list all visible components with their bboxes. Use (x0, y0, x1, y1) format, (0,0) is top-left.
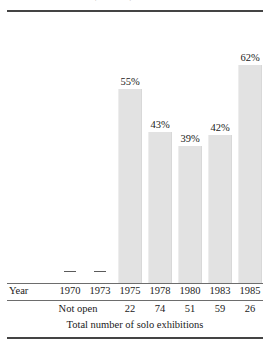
count-cell: 22 (115, 303, 145, 314)
bottom-rule (7, 337, 263, 339)
year-cell: 1975 (115, 285, 145, 296)
bar (148, 132, 172, 283)
count-cell: 51 (175, 303, 205, 314)
year-row-header: Year (9, 285, 28, 296)
year-cell: 1970 (55, 285, 85, 296)
bar-value-label: 43% (145, 119, 175, 130)
count-cell: 74 (145, 303, 175, 314)
no-data-dash (94, 271, 106, 272)
bar-column (55, 0, 85, 283)
bar-value-label: 39% (175, 133, 205, 144)
bar-column: 62% (235, 0, 265, 283)
year-row-bottom-rule (7, 300, 263, 301)
bar-chart-figure: Attendance at the Whitney Museum, 1970–1… (0, 0, 270, 348)
bar-column: 55% (115, 0, 145, 283)
bar-column: 42% (205, 0, 235, 283)
bar-value-label: 42% (205, 122, 235, 133)
not-open-label: Not open (48, 303, 108, 314)
bar-column: 43% (145, 0, 175, 283)
bar (208, 135, 232, 283)
count-cell: 26 (235, 303, 265, 314)
count-cell: 59 (205, 303, 235, 314)
bar-value-label: 62% (235, 52, 265, 63)
bar (178, 146, 202, 283)
bar (118, 89, 142, 283)
year-cell: 1980 (175, 285, 205, 296)
bar-value-label: 55% (115, 76, 145, 87)
year-cell: 1973 (85, 285, 115, 296)
bar-column: 39% (175, 0, 205, 283)
table-row: Not open 2274515926 (0, 300, 270, 319)
bar (238, 65, 262, 283)
year-cell: 1985 (235, 285, 265, 296)
year-cell: 1983 (205, 285, 235, 296)
no-data-dash (64, 271, 76, 272)
bar-column (85, 0, 115, 283)
plot-area: 55%43%39%42%62% (0, 0, 270, 283)
figure-caption: Total number of solo exhibitions (0, 319, 270, 330)
table-row: Year 1970197319751978198019831985 (0, 283, 270, 300)
year-cell: 1978 (145, 285, 175, 296)
